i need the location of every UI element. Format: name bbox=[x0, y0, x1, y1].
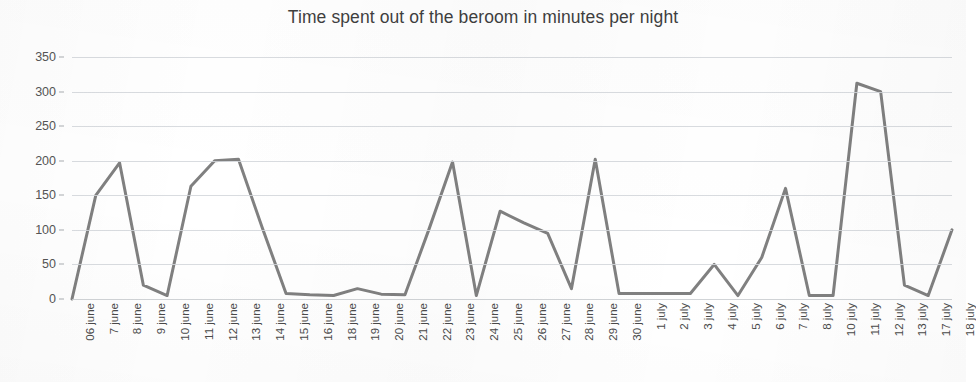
x-axis-tick-label-text: 13 june bbox=[251, 303, 263, 341]
x-axis-tick-label-text: 10 july bbox=[846, 303, 858, 336]
x-axis-tick-label-text: 23 june bbox=[465, 303, 477, 341]
x-axis-tick-label-text: 28 june bbox=[584, 303, 596, 341]
y-axis-tick-label: 250 bbox=[35, 119, 56, 133]
gridline bbox=[72, 264, 952, 265]
x-axis-tick-label: 12 july bbox=[894, 303, 906, 336]
x-axis: 06 june7 june8 june9 june10 june11 june1… bbox=[72, 303, 952, 381]
x-axis-tick-label: 19 june bbox=[370, 303, 382, 341]
x-axis-tick-label: 1 july bbox=[656, 303, 668, 330]
y-axis-tick-label: 0 bbox=[49, 292, 56, 306]
x-axis-tick-label-text: 12 july bbox=[894, 303, 906, 336]
x-axis-tick-label: 18 july bbox=[965, 303, 976, 336]
x-axis-tick-label-text: 11 july bbox=[870, 303, 882, 335]
gridline bbox=[72, 195, 952, 196]
y-axis-tick-label: 50 bbox=[42, 257, 56, 271]
x-axis-tick-label: 30 june bbox=[632, 303, 644, 341]
x-axis-tick-label: 10 july bbox=[846, 303, 858, 336]
x-axis-tick-label-text: 7 june bbox=[109, 303, 121, 334]
y-axis-tick-mark bbox=[59, 126, 64, 127]
x-axis-tick-label: 8 july bbox=[822, 303, 834, 330]
x-axis-tick-label: 17 july bbox=[941, 303, 953, 336]
y-axis-tick-mark bbox=[59, 299, 64, 300]
x-axis-tick-label-text: 6 july bbox=[775, 303, 787, 330]
y-axis-tick-mark bbox=[59, 195, 64, 196]
x-axis-tick-label-text: 5 july bbox=[751, 303, 763, 330]
y-axis-tick-label: 300 bbox=[35, 85, 56, 99]
x-axis-tick-label: 7 july bbox=[798, 303, 810, 330]
y-axis-tick-label: 150 bbox=[35, 188, 56, 202]
x-axis-tick-label-text: 06 june bbox=[85, 303, 97, 341]
x-axis-tick-label: 10 june bbox=[180, 303, 192, 341]
y-axis-tick-label: 200 bbox=[35, 154, 56, 168]
series-line bbox=[72, 57, 952, 299]
y-axis-tick-label: 350 bbox=[35, 50, 56, 64]
x-axis-tick-label: 13 june bbox=[251, 303, 263, 341]
x-axis-tick-label: 14 june bbox=[275, 303, 287, 341]
x-axis-tick-label: 6 july bbox=[775, 303, 787, 330]
y-axis-tick-label: 100 bbox=[35, 223, 56, 237]
x-axis-tick-label-text: 7 july bbox=[798, 303, 810, 330]
x-axis-tick-label: 24 june bbox=[489, 303, 501, 341]
gridline bbox=[72, 126, 952, 127]
plot-area bbox=[72, 57, 952, 299]
x-axis-tick-label-text: 14 june bbox=[275, 303, 287, 341]
x-axis-tick-label: 28 june bbox=[584, 303, 596, 341]
x-axis-tick-label-text: 9 june bbox=[156, 303, 168, 334]
x-axis-tick-label-text: 16 june bbox=[323, 303, 335, 341]
x-axis-tick-label: 5 july bbox=[751, 303, 763, 330]
x-axis-tick-label-text: 8 july bbox=[822, 303, 834, 330]
x-axis-tick-label-text: 11 june bbox=[204, 303, 216, 340]
data-series-line bbox=[72, 83, 952, 299]
x-axis-tick-label-text: 18 june bbox=[347, 303, 359, 341]
x-axis-tick-label: 11 july bbox=[870, 303, 882, 335]
x-axis-tick-label-text: 30 june bbox=[632, 303, 644, 341]
x-axis-tick-label-text: 26 june bbox=[537, 303, 549, 341]
gridline bbox=[72, 92, 952, 93]
x-axis-tick-label: 25 june bbox=[513, 303, 525, 341]
gridline bbox=[72, 299, 952, 300]
x-axis-tick-label: 13 july bbox=[917, 303, 929, 336]
x-axis-tick-label-text: 12 june bbox=[228, 303, 240, 341]
x-axis-tick-label-text: 8 june bbox=[132, 303, 144, 334]
gridline bbox=[72, 161, 952, 162]
x-axis-tick-label-text: 22 june bbox=[442, 303, 454, 341]
y-axis: 350300250200150100500 bbox=[0, 57, 64, 299]
x-axis-tick-label-text: 3 july bbox=[703, 303, 715, 330]
x-axis-tick-label: 18 june bbox=[347, 303, 359, 341]
x-axis-tick-label: 3 july bbox=[703, 303, 715, 330]
x-axis-tick-label: 23 june bbox=[465, 303, 477, 341]
x-axis-tick-label: 26 june bbox=[537, 303, 549, 341]
x-axis-tick-label: 06 june bbox=[85, 303, 97, 341]
x-axis-tick-label-text: 2 july bbox=[679, 303, 691, 330]
y-axis-tick-mark bbox=[59, 264, 64, 265]
x-axis-tick-label: 22 june bbox=[442, 303, 454, 341]
y-axis-tick-mark bbox=[59, 91, 64, 92]
x-axis-tick-label: 12 june bbox=[228, 303, 240, 341]
x-axis-tick-label-text: 29 june bbox=[608, 303, 620, 341]
x-axis-tick-label: 20 june bbox=[394, 303, 406, 341]
x-axis-tick-label-text: 13 july bbox=[917, 303, 929, 336]
gridline bbox=[72, 57, 952, 58]
x-axis-tick-label: 2 july bbox=[679, 303, 691, 330]
x-axis-tick-label: 9 june bbox=[156, 303, 168, 334]
x-axis-tick-label-text: 25 june bbox=[513, 303, 525, 341]
x-axis-tick-label-text: 18 july bbox=[965, 303, 976, 336]
x-axis-tick-label-text: 19 june bbox=[370, 303, 382, 341]
x-axis-tick-label-text: 24 june bbox=[489, 303, 501, 341]
chart-title: Time spent out of the beroom in minutes … bbox=[0, 7, 966, 28]
x-axis-tick-label: 4 july bbox=[727, 303, 739, 330]
x-axis-tick-label: 29 june bbox=[608, 303, 620, 341]
x-axis-tick-label: 15 june bbox=[299, 303, 311, 341]
y-axis-tick-mark bbox=[59, 160, 64, 161]
x-axis-tick-label-text: 1 july bbox=[656, 303, 668, 330]
x-axis-tick-label: 11 june bbox=[204, 303, 216, 340]
x-axis-tick-label-text: 15 june bbox=[299, 303, 311, 341]
y-axis-tick-mark bbox=[59, 57, 64, 58]
x-axis-tick-label-text: 27 june bbox=[561, 303, 573, 341]
x-axis-tick-label: 16 june bbox=[323, 303, 335, 341]
x-axis-tick-label: 8 june bbox=[132, 303, 144, 334]
x-axis-tick-label: 27 june bbox=[561, 303, 573, 341]
x-axis-tick-label-text: 20 june bbox=[394, 303, 406, 341]
x-axis-tick-label-text: 4 july bbox=[727, 303, 739, 330]
